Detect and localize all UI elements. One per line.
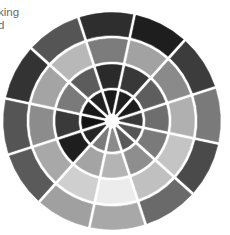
wheel-segment-third-3 [144, 105, 168, 131]
wheel-segment-third-6 [102, 153, 128, 177]
wheel-segment-third-9 [56, 111, 80, 137]
wheel-segment-outer-0 [80, 13, 133, 40]
wheel-segment-second-3 [169, 97, 194, 137]
wheel-segment-outer-9 [4, 100, 31, 153]
wheel-segment-third-0 [96, 65, 122, 89]
wheel-segment-second-0 [88, 39, 128, 64]
value-wheel [0, 0, 230, 235]
wheel-segment-outer-6 [91, 203, 144, 230]
wheel-segment-second-9 [30, 105, 55, 145]
wheel-segment-second-6 [96, 178, 136, 203]
wheel-hub [106, 115, 118, 127]
wheel-segment-outer-3 [194, 89, 221, 142]
